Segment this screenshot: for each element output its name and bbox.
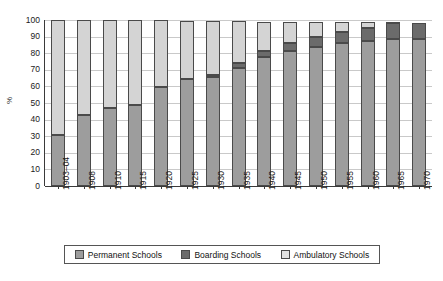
- x-axis-tick: [213, 186, 214, 189]
- x-tick-label: 1925: [191, 140, 200, 190]
- x-tick-label: 1935: [243, 140, 252, 190]
- x-axis-tick: [187, 186, 188, 189]
- x-tick-label: 1915: [139, 140, 148, 190]
- x-tick-label: 1955: [346, 140, 355, 190]
- x-tick-label: 1930: [217, 140, 226, 190]
- x-axis-tick: [110, 186, 111, 189]
- x-axis-tick: [84, 186, 85, 189]
- x-axis-tick: [368, 186, 369, 189]
- x-tick-label: 1950: [320, 140, 329, 190]
- x-tick-label: 1945: [294, 140, 303, 190]
- legend-item[interactable]: Ambulatory Schools: [281, 250, 370, 260]
- legend-label: Permanent Schools: [88, 250, 162, 260]
- x-tick-label: 1920: [165, 140, 174, 190]
- legend-swatch-icon: [75, 250, 84, 259]
- x-tick-label: 1940: [268, 140, 277, 190]
- x-axis-tick: [393, 186, 394, 189]
- x-axis-tick: [290, 186, 291, 189]
- x-axis-tick: [316, 186, 317, 189]
- legend-swatch-icon: [181, 250, 190, 259]
- legend-swatch-icon: [281, 250, 290, 259]
- x-tick-label: 1903–04: [62, 140, 71, 190]
- x-tick-label: 1910: [114, 140, 123, 190]
- x-axis-tick: [239, 186, 240, 189]
- legend-label: Ambulatory Schools: [294, 250, 370, 260]
- x-tick-label: 1960: [372, 140, 381, 190]
- x-axis-tick: [264, 186, 265, 189]
- x-tick-label: 1970: [423, 140, 432, 190]
- legend-item[interactable]: Permanent Schools: [75, 250, 162, 260]
- legend-item[interactable]: Boarding Schools: [181, 250, 261, 260]
- x-tick-label: 1908: [88, 140, 97, 190]
- x-axis-tick: [342, 186, 343, 189]
- x-axis-tick: [135, 186, 136, 189]
- legend-label: Boarding Schools: [194, 250, 261, 260]
- x-axis-tick: [58, 186, 59, 189]
- x-axis-tick: [419, 186, 420, 189]
- chart-legend: Permanent SchoolsBoarding SchoolsAmbulat…: [64, 245, 380, 264]
- x-axis-tick: [161, 186, 162, 189]
- x-tick-label: 1965: [397, 140, 406, 190]
- x-axis-tick-labels: 1903–04190819101915192019251930193519401…: [0, 0, 443, 281]
- stacked-bar-chart: % 0102030405060708090100 1903–0419081910…: [0, 0, 443, 281]
